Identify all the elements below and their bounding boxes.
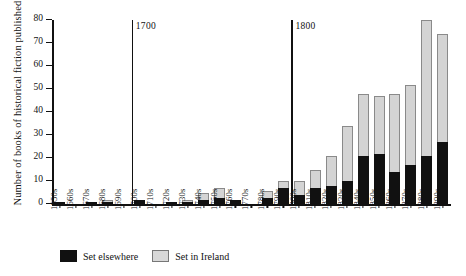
x-label-slot: 1680s xyxy=(100,210,116,250)
x-axis-tick-label: 1670s xyxy=(81,188,91,210)
bar-slot[interactable] xyxy=(196,20,212,204)
century-marker-label: 1700 xyxy=(136,21,156,31)
x-label-slot: 1800s xyxy=(291,210,307,250)
bar-slot[interactable] xyxy=(148,20,164,204)
x-label-slot: 1750s xyxy=(212,210,228,250)
x-tick-mark xyxy=(362,204,363,208)
y-tick-label: 30 xyxy=(34,127,44,140)
bar-slot[interactable] xyxy=(403,20,419,204)
bar-segment-set-in-ireland xyxy=(326,156,337,186)
x-label-slot: 1840s xyxy=(355,210,371,250)
bar-slot[interactable] xyxy=(180,20,196,204)
bar-series-group xyxy=(52,20,451,204)
bar-slot[interactable] xyxy=(387,20,403,204)
x-label-slot: 1860s xyxy=(387,210,403,250)
x-label-slot: 1700s xyxy=(132,210,148,250)
x-axis-tick-label: 1840s xyxy=(352,188,362,210)
century-marker-line xyxy=(132,20,133,206)
x-axis-labels: 1650s1660s1670s1680s1690s1700s1710s1720s… xyxy=(52,210,451,250)
bar-slot[interactable] xyxy=(419,20,435,204)
bar-slot[interactable] xyxy=(212,20,228,204)
bar-slot[interactable] xyxy=(291,20,307,204)
x-axis-tick-label: 1720s xyxy=(161,188,171,210)
x-axis-tick-label: 1650s xyxy=(49,188,59,210)
x-label-slot: 1670s xyxy=(84,210,100,250)
y-axis-title: Number of books of historical fiction pu… xyxy=(12,6,23,206)
bar-slot[interactable] xyxy=(355,20,371,204)
y-tick-label: 40 xyxy=(34,104,44,117)
x-axis-tick-label: 1880s xyxy=(416,188,426,210)
x-label-slot: 1720s xyxy=(164,210,180,250)
bar-slot[interactable] xyxy=(435,20,451,204)
x-axis-tick-label: 1780s xyxy=(257,188,267,210)
x-tick-mark xyxy=(91,204,92,208)
x-axis-tick-label: 1870s xyxy=(400,188,410,210)
x-axis-tick-label: 1680s xyxy=(97,188,107,210)
legend-item[interactable]: Set elsewhere xyxy=(60,250,138,262)
x-axis-tick-label: 1740s xyxy=(193,188,203,210)
x-tick-mark xyxy=(442,204,443,208)
x-axis-tick-label: 1830s xyxy=(336,188,346,210)
x-tick-mark xyxy=(378,204,379,208)
x-axis-tick-label: 1800s xyxy=(288,188,298,210)
x-label-slot: 1690s xyxy=(116,210,132,250)
bar-segment-set-in-ireland xyxy=(310,170,321,188)
bar-segment-set-in-ireland xyxy=(374,96,385,154)
x-tick-mark xyxy=(394,204,395,208)
bar-slot[interactable] xyxy=(132,20,148,204)
y-tick-label: 10 xyxy=(34,173,44,186)
bar-slot[interactable] xyxy=(243,20,259,204)
x-axis-tick-label: 1890s xyxy=(432,188,442,210)
y-tick-label: 70 xyxy=(34,35,44,48)
x-label-slot: 1790s xyxy=(275,210,291,250)
bar-slot[interactable] xyxy=(275,20,291,204)
bar-slot[interactable] xyxy=(52,20,68,204)
bar-slot[interactable] xyxy=(68,20,84,204)
bar-stack[interactable] xyxy=(437,34,448,205)
century-marker-label: 1800 xyxy=(295,21,315,31)
bar-slot[interactable] xyxy=(116,20,132,204)
historical-fiction-bar-chart: Number of books of historical fiction pu… xyxy=(0,0,466,276)
gray-square-icon xyxy=(152,250,169,262)
y-tick-label: 20 xyxy=(34,150,44,163)
legend-item-label: Set elsewhere xyxy=(83,251,138,262)
x-tick-mark xyxy=(347,204,348,208)
bar-slot[interactable] xyxy=(339,20,355,204)
x-tick-mark xyxy=(267,204,268,208)
bar-slot[interactable] xyxy=(84,20,100,204)
bar-slot[interactable] xyxy=(164,20,180,204)
bar-segment-set-in-ireland xyxy=(358,94,369,156)
black-square-icon xyxy=(60,250,77,262)
x-label-slot: 1820s xyxy=(323,210,339,250)
x-label-slot: 1810s xyxy=(307,210,323,250)
y-tick-label: 60 xyxy=(34,58,44,71)
legend-item[interactable]: Set in Ireland xyxy=(152,250,229,262)
bar-segment-set-in-ireland xyxy=(437,34,448,142)
x-label-slot: 1660s xyxy=(68,210,84,250)
x-axis-tick-label: 1770s xyxy=(241,188,251,210)
x-label-slot: 1650s xyxy=(52,210,68,250)
x-tick-mark xyxy=(331,204,332,208)
bar-slot[interactable] xyxy=(307,20,323,204)
bar-stack[interactable] xyxy=(421,20,432,204)
bar-slot[interactable] xyxy=(100,20,116,204)
plot-area: 01020304050607080 17001800 xyxy=(52,20,451,206)
x-label-slot: 1710s xyxy=(148,210,164,250)
x-tick-mark xyxy=(139,204,140,208)
x-axis-tick-label: 1860s xyxy=(384,188,394,210)
x-label-slot: 1740s xyxy=(196,210,212,250)
bar-stack[interactable] xyxy=(405,85,416,205)
x-tick-mark xyxy=(155,204,156,208)
bar-segment-set-in-ireland xyxy=(405,85,416,166)
bar-slot[interactable] xyxy=(227,20,243,204)
bar-slot[interactable] xyxy=(259,20,275,204)
bar-slot[interactable] xyxy=(371,20,387,204)
bar-slot[interactable] xyxy=(323,20,339,204)
x-label-slot: 1890s xyxy=(435,210,451,250)
x-tick-mark xyxy=(235,204,236,208)
x-axis-tick-label: 1820s xyxy=(320,188,330,210)
x-tick-mark xyxy=(315,204,316,208)
x-axis-tick-label: 1750s xyxy=(209,188,219,210)
x-tick-mark xyxy=(410,204,411,208)
x-label-slot: 1730s xyxy=(180,210,196,250)
